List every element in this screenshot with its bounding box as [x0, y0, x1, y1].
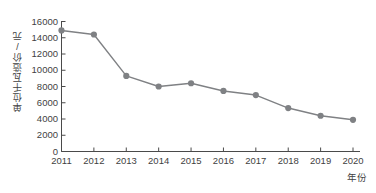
x-axis-tick-label: 2012: [83, 156, 104, 166]
x-axis-tick-labels: 2011201220132014201520162017201820192020: [0, 0, 376, 193]
x-axis-tick-label: 2019: [310, 156, 331, 166]
x-axis-tick-label: 2011: [51, 156, 71, 166]
x-axis-tick-label: 2018: [278, 156, 299, 166]
x-axis-tick-label: 2016: [213, 156, 234, 166]
x-axis-tick-label: 2020: [342, 156, 363, 166]
x-axis-tick-label: 2013: [116, 156, 137, 166]
x-axis-tick-label: 2017: [245, 156, 266, 166]
x-axis-tick-label: 2015: [180, 156, 201, 166]
x-axis-tick-label: 2014: [148, 156, 169, 166]
x-axis-title: 年份: [347, 172, 367, 183]
line-chart: 单位千瓦造价/元 0200040006000800010000120001400…: [0, 0, 376, 193]
